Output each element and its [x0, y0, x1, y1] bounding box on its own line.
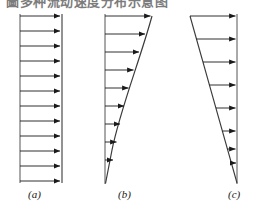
panel-a-arrows: [20, 16, 60, 181]
panel-b-arrows: [105, 16, 151, 160]
figures-svg: [0, 0, 261, 212]
panel-label-a: (a): [28, 188, 41, 200]
panel-c-envelope-line: [190, 16, 237, 183]
panel-c-linear-profile: [190, 14, 237, 184]
velocity-profile-figures: (a) (b) (c): [0, 0, 261, 212]
panel-b-parabolic-profile: [105, 14, 152, 184]
figure-page: 圖多种流动速度分布示意图: [0, 0, 261, 212]
panel-c-arrows: [190, 16, 236, 163]
panel-b-envelope-curve: [106, 16, 153, 184]
panel-label-b: (b): [118, 188, 131, 200]
panel-a-uniform-profile: [20, 14, 62, 183]
panel-label-c: (c): [228, 188, 240, 200]
